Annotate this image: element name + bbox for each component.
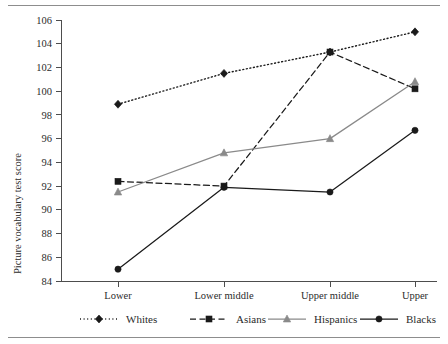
data-point-hispanics-3 <box>411 78 418 85</box>
series-line-blacks <box>118 130 415 269</box>
x-tick-label: Upper <box>402 290 429 301</box>
data-point-whites-3 <box>411 28 418 36</box>
x-tick-label: Upper middle <box>301 290 359 301</box>
diamond-marker-icon <box>95 315 102 323</box>
legend-label-whites: Whites <box>126 313 157 325</box>
legend-item-hispanics[interactable]: Hispanics <box>268 313 357 325</box>
chart-legend: WhitesAsiansHispanicsBlacks <box>80 313 436 325</box>
data-point-blacks-0 <box>115 266 121 272</box>
y-tick-label: 86 <box>42 252 53 263</box>
data-point-whites-0 <box>114 100 121 108</box>
y-tick-label: 106 <box>36 15 52 26</box>
legend-item-whites[interactable]: Whites <box>80 313 157 325</box>
legend-item-asians[interactable]: Asians <box>190 313 266 325</box>
series-asians <box>115 49 418 189</box>
data-point-blacks-2 <box>327 189 333 195</box>
series-layer <box>114 28 418 272</box>
data-point-asians-2 <box>327 49 333 55</box>
data-point-whites-1 <box>220 69 227 77</box>
y-axis-title: Picture vocabulary test score <box>12 153 23 274</box>
x-tick-label: Lower <box>104 290 132 301</box>
line-chart: Picture vocabulary test score 1061041021… <box>0 0 448 344</box>
figure-container: Picture vocabulary test score 1061041021… <box>0 0 448 344</box>
y-tick-label: 102 <box>36 62 52 73</box>
data-point-blacks-1 <box>221 184 227 190</box>
legend-label-hispanics: Hispanics <box>314 313 357 325</box>
y-tick-label: 104 <box>36 38 53 49</box>
series-line-hispanics <box>118 82 415 192</box>
y-tick-label: 90 <box>42 204 53 215</box>
x-tick-label: Lower middle <box>194 290 254 301</box>
y-tick-label: 92 <box>42 181 53 192</box>
series-whites <box>114 28 418 108</box>
y-tick-label: 88 <box>42 228 53 239</box>
square-marker-icon <box>206 316 212 322</box>
legend-label-asians: Asians <box>236 313 266 325</box>
series-blacks <box>115 127 418 272</box>
y-tick-label: 100 <box>36 86 52 97</box>
y-axis-ticks: 1061041021009896949290888684 <box>36 15 61 287</box>
y-tick-label: 98 <box>42 110 53 121</box>
circle-marker-icon <box>376 316 382 322</box>
y-axis-title-label: Picture vocabulary test score <box>12 153 23 274</box>
legend-label-blacks: Blacks <box>406 313 436 325</box>
data-point-blacks-3 <box>412 127 418 133</box>
legend-item-blacks[interactable]: Blacks <box>360 313 436 325</box>
y-tick-label: 84 <box>42 276 53 287</box>
y-tick-label: 96 <box>42 133 53 144</box>
series-line-whites <box>118 32 415 104</box>
y-tick-label: 94 <box>42 157 53 168</box>
data-point-hispanics-2 <box>326 135 333 142</box>
series-hispanics <box>114 78 418 195</box>
x-axis-ticks: LowerLower middleUpper middleUpper <box>104 282 428 302</box>
data-point-asians-0 <box>115 178 121 184</box>
series-line-asians <box>118 52 415 186</box>
data-point-asians-3 <box>412 86 418 92</box>
